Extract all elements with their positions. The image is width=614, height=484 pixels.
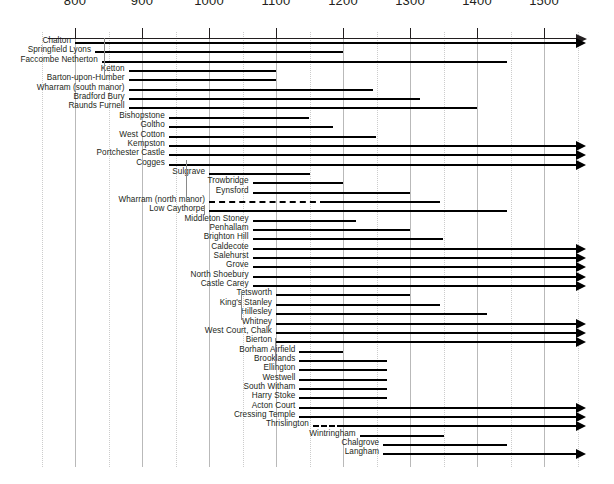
bar-segment [253,266,577,268]
label-leader-line-1 [104,66,105,75]
bar-segment [276,304,440,306]
bar-segment [326,201,440,203]
bar-segment [276,323,576,325]
bar-segment [299,360,386,362]
bar-segment [299,397,386,399]
bar-segment [299,416,576,418]
bar-segment [102,61,507,63]
bar-segment [253,248,577,250]
bar-segment [169,145,576,147]
bar-segment [253,276,577,278]
timeline-rows: ChaltonSpringfield LyonsFaccombe Nethert… [0,0,614,484]
bar-segment [253,182,343,184]
bar-segment [299,388,386,390]
row-label: Raunds Furnell [68,101,124,111]
bar-segment [276,294,410,296]
bar-arrowhead-open-end [576,449,586,459]
timeline-chart: 800900100011001200130014001500 ChaltonSp… [0,0,614,484]
label-leader-line-0 [104,38,105,66]
bar-segment [253,257,577,259]
bar-segment [360,435,444,437]
bar-segment [253,229,410,231]
bar-segment [299,351,343,353]
bar-segment [253,192,410,194]
bar-segment [129,98,420,100]
row-label: Thrislington [266,419,309,429]
row-label: Eynsford [216,186,249,196]
bar-segment [169,136,377,138]
bar-segment [383,453,576,455]
timeline-row: Langham [0,449,614,459]
bar-segment [129,89,374,91]
label-leader-line-3 [204,205,205,215]
bar-segment [276,313,487,315]
row-label: Faccombe Netherton [20,55,97,65]
row-label: Langham [345,447,380,457]
bar-segment-uncertain [209,201,326,203]
bar-segment [253,238,444,240]
bar-segment [129,70,276,72]
label-leader-line-5 [275,338,276,368]
bar-segment [95,51,343,53]
bar-segment [253,285,577,287]
bar-segment [299,407,576,409]
row-label: Cogges [136,158,165,168]
bar-segment [169,154,576,156]
bar-segment [129,79,276,81]
bar-segment [169,164,576,166]
label-leader-line-4 [241,292,242,320]
row-label: Sulgrave [172,167,205,177]
bar-segment [383,444,507,446]
bar-segment-uncertain [313,425,343,427]
bar-segment [299,379,386,381]
bar-segment [209,173,310,175]
label-leader-line-2 [186,160,187,200]
bar-segment [75,42,576,44]
bar-segment [169,117,310,119]
bar-segment [299,369,386,371]
bar-segment [169,126,333,128]
bar-segment [343,425,576,427]
bar-segment [276,341,576,343]
bar-segment [209,210,507,212]
bar-segment [253,220,357,222]
bar-segment [276,332,576,334]
bar-segment [129,107,477,109]
